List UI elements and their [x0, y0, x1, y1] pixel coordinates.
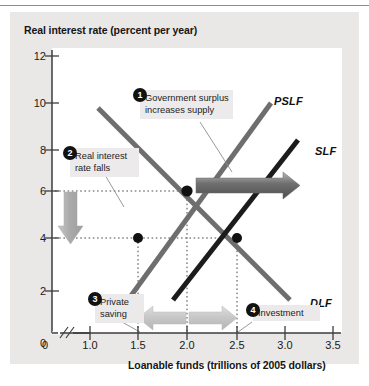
- curve-label-slf: SLF: [315, 145, 336, 157]
- supply-shift-arrow: [196, 172, 300, 199]
- figure-root: Real interest rate (percent per year) Lo…: [0, 0, 369, 386]
- curve-pslf: [117, 103, 271, 315]
- rate-falls-arrow: [58, 192, 83, 244]
- callout-investment: Investment: [253, 305, 320, 321]
- callout-private-saving: Private saving: [95, 294, 144, 323]
- equilibrium-dot-investment: [232, 233, 242, 243]
- investment-arrow: [189, 306, 237, 330]
- callout-2-line-1: Real interest: [75, 150, 135, 162]
- callout-badge-4: 4: [246, 303, 260, 317]
- curve-label-pslf: PSLF: [274, 95, 303, 107]
- callout-1-line-1: Government surplus: [145, 92, 229, 104]
- callout-badge-2: 2: [63, 146, 77, 160]
- callout-badge-3: 3: [88, 292, 102, 306]
- callout-1-line-2: increases supply: [145, 104, 229, 116]
- curve-slf: [173, 140, 298, 300]
- equilibrium-dot-private-saving: [133, 233, 143, 243]
- callout-government-surplus: Government surplus increases supply: [140, 90, 233, 119]
- private-saving-arrow: [138, 306, 186, 330]
- callout-2-line-2: rate falls: [75, 162, 135, 174]
- callout-3-line-2: saving: [100, 308, 140, 320]
- callout-badge-1: 1: [133, 88, 147, 102]
- equilibrium-dot-initial: [181, 185, 192, 196]
- callout-4-line-1: Investment: [258, 307, 316, 319]
- callout-3-line-1: Private: [100, 296, 140, 308]
- chart-graphics: [0, 0, 369, 386]
- callout-real-interest-rate-falls: Real interest rate falls: [70, 148, 139, 177]
